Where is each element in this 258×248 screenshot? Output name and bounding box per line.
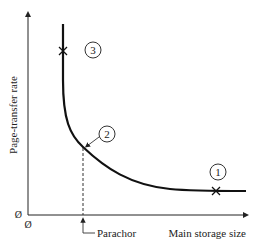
- y-axis-label: Page-transfer rate: [7, 76, 19, 154]
- x-axis-label: Main storage size: [168, 227, 246, 239]
- point-2-pointer: [87, 137, 99, 146]
- y-origin-label: Ø: [15, 209, 22, 220]
- parachor-label: Parachor: [97, 227, 136, 239]
- point-1-label: 1: [215, 166, 221, 178]
- point-2-label: 2: [104, 128, 110, 140]
- x-origin-label: Ø: [24, 219, 31, 230]
- point-3-label: 3: [90, 44, 96, 56]
- chart: 3 2 Parachor 1 Page-transfer rate Main s…: [0, 0, 258, 248]
